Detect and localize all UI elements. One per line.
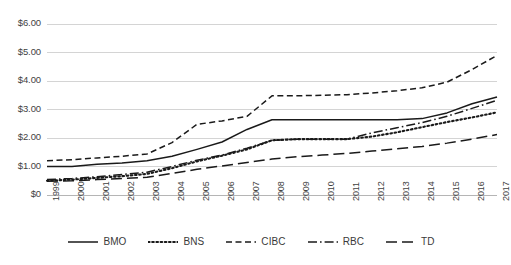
legend-label: CIBC <box>261 236 285 247</box>
series-lines <box>47 55 497 181</box>
y-axis-tick-label: $1.00 <box>0 160 41 171</box>
y-axis-tick-label: $0 <box>0 188 41 199</box>
y-axis-tick-label: $5.00 <box>0 46 41 57</box>
x-axis-tick-label: 2002 <box>126 181 136 201</box>
x-axis-tick-label: 2001 <box>101 181 111 201</box>
series-line-rbc <box>47 100 497 179</box>
x-axis-tick-label: 2011 <box>351 182 361 201</box>
y-axis-tick-label: $4.00 <box>0 74 41 85</box>
x-axis-tick-label: 2005 <box>201 181 211 201</box>
legend-swatch-dashed-icon <box>226 237 256 247</box>
series-line-bns <box>47 112 497 180</box>
legend-swatch-dashdot-icon <box>308 237 338 247</box>
x-axis-tick-label: 2010 <box>326 181 336 201</box>
legend-swatch-solid-icon <box>68 237 98 247</box>
legend-label: BMO <box>103 236 126 247</box>
x-axis-tick-label: 2013 <box>401 181 411 201</box>
y-axis-tick-label: $3.00 <box>0 103 41 114</box>
y-axis-tick-label: $6.00 <box>0 17 41 28</box>
legend-label: TD <box>421 236 435 247</box>
legend-item-bns[interactable]: BNS <box>148 236 204 247</box>
x-axis-tick-label: 2004 <box>176 181 186 201</box>
legend-swatch-dotted-icon <box>148 237 178 247</box>
x-axis-tick-label: 2017 <box>501 181 511 201</box>
legend-item-rbc[interactable]: RBC <box>308 236 364 247</box>
x-axis-tick-label: 2008 <box>276 181 286 201</box>
x-axis-tick-label: 2007 <box>251 181 261 201</box>
legend-item-cibc[interactable]: CIBC <box>226 236 285 247</box>
x-axis-tick-label: 2006 <box>226 181 236 201</box>
chart-legend: BMOBNSCIBCRBCTD <box>0 236 503 247</box>
legend-label: RBC <box>343 236 364 247</box>
y-axis-tick-label: $2.00 <box>0 131 41 142</box>
x-axis-tick-label: 2003 <box>151 181 161 201</box>
x-axis-tick-label: 1999 <box>51 181 61 201</box>
x-axis-tick-label: 2000 <box>76 181 86 201</box>
x-axis-tick-label: 2016 <box>476 181 486 201</box>
legend-item-bmo[interactable]: BMO <box>68 236 126 247</box>
legend-label: BNS <box>183 236 204 247</box>
legend-item-td[interactable]: TD <box>386 236 435 247</box>
legend-swatch-longdash-icon <box>386 237 416 247</box>
x-axis-tick-label: 2009 <box>301 181 311 201</box>
x-axis-tick-label: 2015 <box>451 181 461 201</box>
series-line-td <box>47 135 497 182</box>
x-axis-tick-label: 2012 <box>376 181 386 201</box>
x-axis-tick-label: 2014 <box>426 181 436 201</box>
gridlines <box>47 24 497 195</box>
